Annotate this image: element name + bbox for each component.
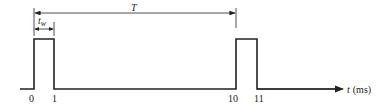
tick-label-11: 11 xyxy=(254,93,264,104)
pulse-diagram-canvas: T tw 0 1 10 11 t(ms) xyxy=(0,0,391,106)
axis-label-var: t xyxy=(347,84,350,95)
tick-label-1: 1 xyxy=(52,93,57,104)
waveform xyxy=(20,39,340,89)
pulse-width-label-sub: w xyxy=(41,19,47,28)
tick-label-10: 10 xyxy=(228,93,238,104)
axis-label: t(ms) xyxy=(347,84,371,96)
pulse-width-label: tw xyxy=(38,15,47,28)
tick-label-0: 0 xyxy=(29,93,34,104)
axis-label-unit: (ms) xyxy=(353,84,371,96)
pulse-train-diagram: T tw 0 1 10 11 t(ms) xyxy=(0,0,391,106)
period-label: T xyxy=(131,2,138,13)
